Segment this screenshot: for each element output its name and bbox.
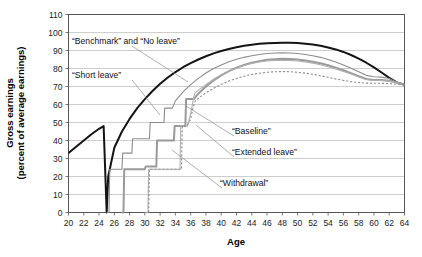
annotation-benchmark-and-no-leave: “Benchmark” and “No leave”: [72, 36, 180, 46]
leader-line-benchmark-and-no-leave: [132, 46, 188, 82]
x-tick-label-44: 44: [247, 218, 257, 228]
y-axis-title-line1: Gross earnings: [4, 78, 15, 148]
y-tick-label-10: 10: [53, 190, 63, 200]
annotation-extended-leave: “Extended leave”: [232, 147, 297, 157]
x-tick-label-22: 22: [79, 218, 89, 228]
x-tick-label-26: 26: [110, 218, 120, 228]
annotation-baseline: “Baseline”: [232, 126, 271, 136]
x-tick-label-32: 32: [155, 218, 165, 228]
y-tick-label-80: 80: [53, 64, 63, 74]
series-withdrawal: [145, 72, 405, 213]
y-tick-label-100: 100: [48, 28, 62, 38]
annotation-short-leave: “Short leave”: [72, 70, 121, 80]
y-tick-label-70: 70: [53, 82, 63, 92]
leader-line-extended-leave: [196, 125, 234, 157]
x-tick-label-48: 48: [278, 218, 288, 228]
series-extended-leave: [145, 60, 405, 212]
y-tick-label-90: 90: [53, 46, 63, 56]
annotation-withdrawal: “Withdrawal”: [220, 178, 268, 188]
y-tick-label-0: 0: [58, 208, 63, 218]
y-axis-title: Gross earnings (percent of average earni…: [4, 46, 26, 179]
earnings-profile-chart: 2022242628303234363840424446485052545658…: [0, 0, 422, 257]
x-tick-label-42: 42: [232, 218, 242, 228]
x-tick-label-50: 50: [293, 218, 303, 228]
x-tick-label-40: 40: [216, 218, 226, 228]
leader-line-baseline: [186, 106, 234, 136]
y-tick-label-40: 40: [53, 136, 63, 146]
x-axis-title: Age: [227, 236, 245, 247]
x-tick-label-34: 34: [171, 218, 181, 228]
y-tick-label-50: 50: [53, 118, 63, 128]
x-tick-label-52: 52: [308, 218, 318, 228]
y-axis-title-line2: (percent of average earnings): [15, 46, 26, 179]
x-axis-tick-labels: 2022242628303234363840424446485052545658…: [64, 218, 410, 228]
x-tick-label-36: 36: [186, 218, 196, 228]
x-tick-label-60: 60: [369, 218, 379, 228]
x-tick-label-30: 30: [140, 218, 150, 228]
y-tick-label-60: 60: [53, 100, 63, 110]
y-tick-label-110: 110: [49, 10, 63, 20]
y-tick-label-30: 30: [53, 154, 63, 164]
x-tick-label-38: 38: [201, 218, 211, 228]
x-tick-label-20: 20: [64, 218, 74, 228]
chart-canvas: 2022242628303234363840424446485052545658…: [0, 0, 422, 257]
y-tick-label-20: 20: [53, 172, 63, 182]
x-tick-label-46: 46: [262, 218, 272, 228]
x-tick-label-54: 54: [323, 218, 333, 228]
x-tick-label-56: 56: [339, 218, 349, 228]
x-tick-label-24: 24: [94, 218, 104, 228]
x-tick-label-58: 58: [354, 218, 364, 228]
x-tick-label-64: 64: [400, 218, 410, 228]
x-tick-label-28: 28: [125, 218, 135, 228]
y-axis-tick-labels: 0102030405060708090100110: [48, 10, 62, 218]
x-tick-label-62: 62: [384, 218, 394, 228]
